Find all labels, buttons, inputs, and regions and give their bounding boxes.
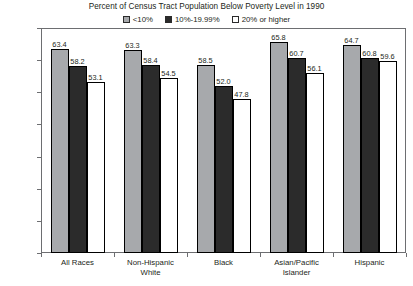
- bar[interactable]: 53.1: [87, 82, 105, 253]
- bar-value-label: 58.4: [143, 56, 157, 65]
- bar-value-label: 58.2: [70, 57, 84, 66]
- chart-figure: Percent of Census Tract Population Below…: [0, 0, 413, 286]
- bar-value-label: 52.0: [216, 77, 230, 86]
- legend-swatch-high-icon: [232, 16, 239, 23]
- bar-value-label: 47.8: [234, 90, 248, 99]
- bar[interactable]: 64.7: [343, 45, 361, 253]
- legend-label-mid: 10%-19.99%: [175, 15, 220, 24]
- x-axis-label: Hispanic: [333, 258, 406, 277]
- bar[interactable]: 58.5: [197, 65, 215, 253]
- bar-group: 64.760.859.6: [333, 28, 406, 253]
- x-axis-label-line: White: [114, 268, 187, 278]
- legend-item-mid: 10%-19.99%: [165, 15, 220, 24]
- bar[interactable]: 54.5: [160, 78, 178, 253]
- x-axis-label-line: Non-Hispanic: [114, 258, 187, 268]
- x-tick-mark: [187, 253, 188, 257]
- x-axis-label-line: Black: [187, 258, 260, 268]
- bar-group-bars: 58.552.047.8: [197, 28, 251, 253]
- legend-item-low: <10%: [123, 15, 153, 24]
- x-tick-mark: [41, 253, 42, 257]
- x-tick-mark: [260, 253, 261, 257]
- bar[interactable]: 59.6: [379, 61, 397, 253]
- bar-group-bars: 64.760.859.6: [343, 28, 397, 253]
- bar-value-label: 60.7: [289, 49, 303, 58]
- bar[interactable]: 60.7: [288, 58, 306, 253]
- x-axis-label: All Races: [41, 258, 114, 277]
- bar-group: 65.860.756.1: [260, 28, 333, 253]
- legend-swatch-low-icon: [123, 16, 130, 23]
- x-axis-label: Black: [187, 258, 260, 277]
- bar-value-label: 64.7: [344, 36, 358, 45]
- bar-value-label: 60.8: [362, 49, 376, 58]
- x-axis-label-line: All Races: [41, 258, 114, 268]
- x-axis-label: Asian/PacificIslander: [260, 258, 333, 277]
- bar-value-label: 59.6: [380, 52, 394, 61]
- x-axis-label: Non-HispanicWhite: [114, 258, 187, 277]
- x-axis-label-line: Hispanic: [333, 258, 406, 268]
- bar-value-label: 54.5: [161, 69, 175, 78]
- bar-value-label: 56.1: [307, 64, 321, 73]
- legend-label-low: <10%: [133, 15, 153, 24]
- bar[interactable]: 56.1: [306, 73, 324, 253]
- bar[interactable]: 65.8: [270, 42, 288, 254]
- bar-value-label: 58.5: [198, 56, 212, 65]
- legend-label-high: 20% or higher: [242, 15, 291, 24]
- x-axis-label-line: Islander: [260, 268, 333, 278]
- bar-group: 63.358.454.5: [114, 28, 187, 253]
- bar-value-label: 63.3: [125, 41, 139, 50]
- legend-swatch-mid-icon: [165, 16, 172, 23]
- x-tick-mark: [114, 253, 115, 257]
- bar-group-bars: 63.358.454.5: [124, 28, 178, 253]
- bar[interactable]: 58.2: [69, 66, 87, 253]
- x-tick-mark: [406, 253, 407, 257]
- bar-group: 58.552.047.8: [187, 28, 260, 253]
- bar[interactable]: 63.4: [51, 49, 69, 253]
- bar-value-label: 65.8: [271, 33, 285, 42]
- bar[interactable]: 63.3: [124, 50, 142, 253]
- chart-legend: <10% 10%-19.99% 20% or higher: [0, 15, 413, 24]
- bar[interactable]: 58.4: [142, 65, 160, 253]
- bar-value-label: 53.1: [88, 73, 102, 82]
- bar-group: 63.458.253.1: [41, 28, 114, 253]
- bar[interactable]: 52.0: [215, 86, 233, 253]
- x-tick-mark: [333, 253, 334, 257]
- x-axis-label-line: Asian/Pacific: [260, 258, 333, 268]
- bar[interactable]: 60.8: [361, 58, 379, 253]
- bar-groups: 63.458.253.163.358.454.558.552.047.865.8…: [41, 28, 406, 253]
- x-axis-labels: All RacesNon-HispanicWhiteBlackAsian/Pac…: [41, 258, 406, 277]
- bar-value-label: 63.4: [52, 40, 66, 49]
- chart-title: Percent of Census Tract Population Below…: [0, 2, 413, 11]
- bar-group-bars: 63.458.253.1: [51, 28, 105, 253]
- bar[interactable]: 47.8: [233, 99, 251, 253]
- bar-group-bars: 65.860.756.1: [270, 28, 324, 253]
- legend-item-high: 20% or higher: [232, 15, 291, 24]
